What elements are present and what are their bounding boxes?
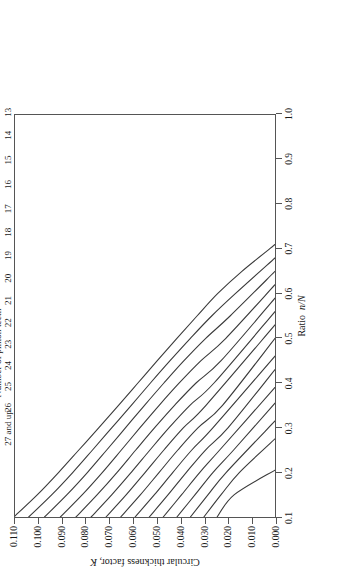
curve-teeth-27 xyxy=(217,470,275,517)
curve-svg xyxy=(15,115,275,517)
curve-teeth-21 xyxy=(135,356,275,517)
x-axis-title: Ratio n/N xyxy=(296,114,307,518)
y-axis-tick-label: 0.040 xyxy=(175,526,186,547)
y-axis-tick xyxy=(276,518,277,524)
y-axis-title-symbol: K xyxy=(90,557,97,568)
x-axis-tick xyxy=(276,472,282,473)
x-axis-tick-label: 0.4 xyxy=(284,377,295,389)
y-axis-title-text: Circular thickness factor, xyxy=(97,557,200,568)
x-axis-tick-label: 0.5 xyxy=(284,333,295,345)
y-axis-tick-label: 0.110 xyxy=(9,526,20,547)
x-axis-tick xyxy=(276,293,282,294)
curve-teeth-14 xyxy=(29,258,275,517)
x-axis-tick xyxy=(276,248,282,249)
y-axis-tick-label: 0.060 xyxy=(128,526,139,547)
x-axis-tick xyxy=(276,113,282,114)
chart-figure: 131415161718192021222324252627 and up Nu… xyxy=(0,0,352,576)
pinion-teeth-heading-wrap: Number of pinion teeth xyxy=(0,188,5,518)
x-axis-title-text: Ratio xyxy=(296,310,307,337)
y-axis-tick xyxy=(181,518,182,524)
x-axis-tick xyxy=(276,203,282,204)
y-axis-tick xyxy=(85,518,86,524)
y-axis-tick xyxy=(205,518,206,524)
x-axis-tick xyxy=(276,158,282,159)
y-axis-tick-label: 0.020 xyxy=(223,526,234,547)
y-axis-tick xyxy=(38,518,39,524)
y-axis-title: Circular thickness factor, K xyxy=(14,557,276,568)
curve-teeth-15 xyxy=(45,271,275,517)
y-axis-tick xyxy=(14,518,15,524)
x-axis-tick-label: 0.7 xyxy=(284,243,295,255)
y-axis-tick xyxy=(228,518,229,524)
x-axis-tick-label: 0.8 xyxy=(284,198,295,210)
x-axis-tick-label: 0.9 xyxy=(284,153,295,165)
y-axis-tick-label: 0.010 xyxy=(247,526,258,547)
plot-area xyxy=(14,114,276,518)
y-axis-tick xyxy=(157,518,158,524)
y-axis-tick xyxy=(62,518,63,524)
x-axis-tick-label: 0.2 xyxy=(284,467,295,479)
x-axis-title-symbol: n/N xyxy=(296,295,307,309)
curve-teeth-26 xyxy=(204,439,275,517)
y-axis-tick-label: 0.090 xyxy=(56,526,67,547)
x-axis-tick-label: 1.0 xyxy=(284,108,295,120)
curve-label-teeth-13: 13 xyxy=(3,108,13,117)
x-axis-tick-label: 0.1 xyxy=(284,512,295,524)
y-axis-tick-label: 0.000 xyxy=(271,526,282,547)
x-axis-tick xyxy=(276,427,282,428)
x-axis: 0.10.20.30.40.50.60.70.80.91.0 xyxy=(276,114,277,518)
x-axis-tick xyxy=(276,382,282,383)
x-axis-tick-label: 0.3 xyxy=(284,422,295,434)
curve-label-teeth-14: 14 xyxy=(3,131,13,140)
y-axis: 0.0000.0100.0200.0300.0400.0500.0600.070… xyxy=(14,517,276,518)
y-axis-tick xyxy=(109,518,110,524)
curve-label-teeth-15: 15 xyxy=(3,155,13,164)
curve-teeth-20 xyxy=(121,338,275,517)
y-axis-tick xyxy=(252,518,253,524)
y-axis-tick-label: 0.100 xyxy=(32,526,43,547)
y-axis-tick-label: 0.080 xyxy=(80,526,91,547)
rotated-figure-container: 131415161718192021222324252627 and up Nu… xyxy=(0,0,352,576)
y-axis-tick-label: 0.030 xyxy=(199,526,210,547)
curve-teeth-22 xyxy=(149,370,275,517)
x-axis-tick xyxy=(276,337,282,338)
y-axis-title-wrap: Circular thickness factor, K xyxy=(14,554,276,568)
x-axis-tick-label: 0.6 xyxy=(284,288,295,300)
y-axis-tick-label: 0.070 xyxy=(104,526,115,547)
y-axis-tick-label: 0.050 xyxy=(151,526,162,547)
curve-teeth-16 xyxy=(60,285,275,517)
pinion-teeth-heading: Number of pinion teeth xyxy=(0,309,3,398)
y-axis-tick xyxy=(133,518,134,524)
